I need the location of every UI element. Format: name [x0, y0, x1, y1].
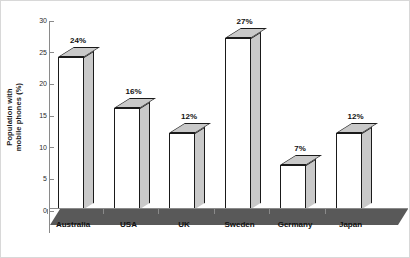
bar-side-face — [84, 51, 94, 209]
x-axis-label-usa: USA — [97, 220, 161, 229]
bar-value-label: 27% — [227, 17, 263, 26]
bar-group[interactable]: 7% — [280, 141, 316, 209]
bar-side-face — [362, 127, 372, 209]
bar-value-label: 12% — [338, 112, 374, 121]
bar-front-face — [58, 57, 84, 209]
bar-side-face — [251, 32, 261, 209]
bar-side-face — [306, 158, 316, 209]
x-axis-tick-mark — [47, 209, 48, 214]
x-axis-tick-mark — [214, 209, 215, 214]
x-axis-label-japan: Japan — [319, 220, 383, 229]
x-axis-tick-mark — [103, 209, 104, 214]
bar-group[interactable]: 27% — [225, 14, 261, 209]
bar-side-face — [195, 127, 205, 209]
y-axis-title: Population with mobile phones (%) — [1, 1, 27, 233]
plot-area: 051015202530 24%16%12%27%7%12% Australia… — [27, 9, 405, 231]
bar-sweden[interactable] — [225, 28, 251, 209]
y-axis-title-line-1: Population with — [5, 83, 14, 151]
bar-germany[interactable] — [280, 155, 306, 209]
bar-australia[interactable] — [58, 47, 84, 209]
x-axis-tick-mark — [325, 209, 326, 214]
bar-value-label: 12% — [171, 112, 207, 121]
bar-japan[interactable] — [336, 123, 362, 209]
bar-front-face — [225, 38, 251, 209]
x-axis-tick-mark — [269, 209, 270, 214]
bar-side-face — [140, 101, 150, 209]
y-axis-title-line-2: mobile phones (%) — [14, 83, 23, 151]
bar-value-label: 16% — [116, 87, 152, 96]
x-axis-label-australia: Australia — [41, 220, 105, 229]
bar-uk[interactable] — [169, 123, 195, 209]
bar-front-face — [280, 165, 306, 209]
x-axis-label-sweden: Sweden — [208, 220, 272, 229]
bar-value-label: 24% — [60, 36, 96, 45]
bar-front-face — [169, 133, 195, 209]
bar-usa[interactable] — [114, 98, 140, 209]
bar-front-face — [336, 133, 362, 209]
bar-value-label: 7% — [282, 144, 318, 153]
bar-group[interactable]: 12% — [336, 109, 372, 209]
bar-front-face — [114, 108, 140, 209]
bar-group[interactable]: 12% — [169, 109, 205, 209]
bar-group[interactable]: 16% — [114, 84, 150, 209]
bar-group[interactable]: 24% — [58, 33, 94, 209]
bars-layer: 24%16%12%27%7%12% — [27, 9, 405, 231]
x-axis-tick-mark — [158, 209, 159, 214]
bar-chart-figure: Population with mobile phones (%) 051015… — [0, 0, 410, 258]
x-axis-label-germany: Germany — [263, 220, 327, 229]
x-axis-label-uk: UK — [152, 220, 216, 229]
